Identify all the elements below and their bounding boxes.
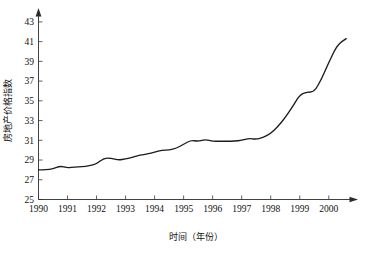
x-tick-label: 1994 [145, 204, 164, 214]
x-tick-label: 1996 [203, 204, 222, 214]
x-tick-label-group: 1990199119921993199419951996199719981999… [29, 204, 339, 214]
y-tick-label: 37 [25, 76, 35, 86]
price-index-line [39, 39, 347, 170]
chart-canvas: 25272931333537394143 1990199119921993199… [0, 0, 367, 253]
y-tick-label: 41 [25, 37, 35, 47]
x-axis-arrowhead [350, 197, 359, 203]
y-tick-label-group: 25272931333537394143 [25, 17, 35, 205]
y-tick-label: 35 [25, 96, 35, 106]
x-axis: 1990199119921993199419951996199719981999… [29, 196, 358, 215]
x-tick-label: 2000 [319, 204, 338, 214]
y-tick-group [39, 22, 43, 200]
y-tick-label: 27 [25, 175, 35, 185]
y-axis-title: 房地产价格指数 [2, 79, 13, 142]
y-tick-label: 29 [25, 155, 35, 165]
x-tick-label: 1990 [29, 204, 48, 214]
y-axis: 25272931333537394143 [25, 8, 43, 205]
x-tick-label: 1999 [290, 204, 309, 214]
x-tick-label: 1995 [174, 204, 193, 214]
y-tick-label: 43 [25, 17, 35, 27]
x-tick-group [39, 196, 329, 200]
y-tick-label: 31 [25, 136, 35, 146]
x-tick-label: 1992 [87, 204, 106, 214]
y-tick-label: 39 [25, 57, 35, 67]
y-axis-arrowhead [36, 8, 42, 17]
y-tick-label: 33 [25, 116, 35, 126]
x-tick-label: 1997 [232, 204, 251, 214]
x-axis-title: 时间（年份） [169, 231, 223, 242]
x-tick-label: 1993 [116, 204, 135, 214]
x-tick-label: 1991 [58, 204, 77, 214]
real-estate-price-index-chart: 25272931333537394143 1990199119921993199… [0, 0, 367, 253]
x-tick-label: 1998 [261, 204, 280, 214]
